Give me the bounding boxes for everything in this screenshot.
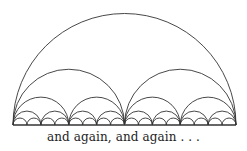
semicircle-arc [180,97,236,125]
semicircle-arc [125,118,139,125]
nested-semicircle-diagram [0,0,247,151]
semicircle-arc [166,118,180,125]
semicircle-arc [41,118,55,125]
semicircle-arc [152,118,166,125]
semicircle-arc [222,118,236,125]
semicircle-arc [111,118,125,125]
semicircle-arc [69,118,83,125]
semicircle-arc [13,14,236,125]
semicircle-arc [83,118,97,125]
semicircle-arc [27,118,41,125]
caption: and again, and again . . . [0,130,247,144]
semicircle-arc [13,118,27,125]
semicircle-arc [125,97,181,125]
semicircle-arc [125,69,237,125]
semicircle-arc [55,118,69,125]
semicircle-arc [194,118,208,125]
semicircle-arc [69,97,125,125]
semicircle-arc [13,97,69,125]
semicircle-arc [97,118,111,125]
semicircle-arc [180,118,194,125]
semicircle-arc [138,118,152,125]
semicircle-arc [13,69,125,125]
semicircle-arc [208,118,222,125]
